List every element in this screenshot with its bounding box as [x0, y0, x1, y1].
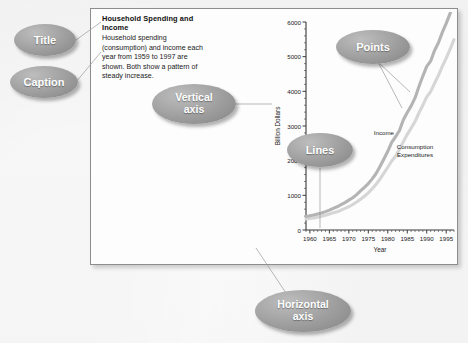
- y-tick-label: 3000: [287, 123, 301, 130]
- y-tick-label: 1000: [287, 192, 301, 199]
- callout-title[interactable]: Title: [14, 24, 76, 56]
- y-tick-label: 5000: [287, 53, 301, 60]
- x-tick-label: 1970: [342, 235, 356, 242]
- callout-caption-label: Caption: [24, 76, 65, 88]
- callout-horizontal-axis[interactable]: Horizontal axis: [255, 290, 351, 332]
- text-block: Household Spending and Income Household …: [102, 14, 210, 82]
- callout-points-label: Points: [356, 41, 390, 53]
- series-annotation: Expenditures: [397, 151, 433, 158]
- page-title: Household Spending and Income: [102, 14, 210, 33]
- x-axis-title: Year: [374, 246, 388, 253]
- x-tick-label: 1960: [303, 235, 317, 242]
- x-tick-label: 1965: [322, 235, 336, 242]
- callout-points[interactable]: Points: [336, 30, 410, 64]
- x-tick-label: 1990: [420, 235, 434, 242]
- callout-lines-label: Lines: [306, 144, 335, 156]
- y-tick-label: 4000: [287, 88, 301, 95]
- x-tick-label: 1985: [400, 235, 414, 242]
- callout-title-label: Title: [34, 34, 56, 46]
- y-tick-label: 0: [298, 227, 302, 234]
- y-axis-title: Billion Dollars: [274, 107, 281, 146]
- callout-caption[interactable]: Caption: [10, 66, 78, 98]
- callout-lines[interactable]: Lines: [287, 133, 353, 167]
- x-tick-label: 1975: [361, 235, 375, 242]
- callout-horizontal-axis-label-line2: axis: [293, 311, 313, 323]
- series-annotation: Income: [374, 129, 395, 136]
- callout-vertical-axis-label-line2: axis: [184, 104, 204, 116]
- page-caption: Household spending (consumption) and inc…: [102, 34, 210, 82]
- y-tick-label: 6000: [287, 19, 301, 26]
- x-tick-label: 1995: [439, 235, 453, 242]
- series-annotation: Consumption: [397, 143, 434, 150]
- callout-vertical-axis[interactable]: Vertical axis: [152, 84, 236, 124]
- x-tick-label: 1980: [381, 235, 395, 242]
